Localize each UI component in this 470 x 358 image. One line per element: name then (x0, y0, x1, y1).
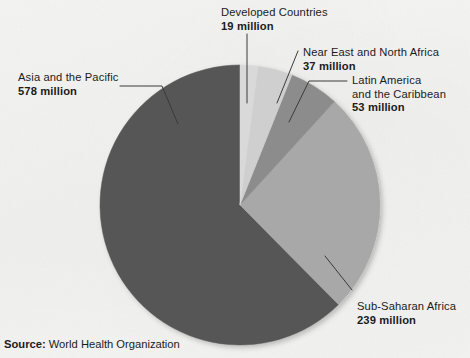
label-sub-saharan-value: 239 million (357, 314, 456, 328)
label-latin-america-name-line1: Latin America (352, 74, 446, 88)
label-near-east-name: Near East and North Africa (303, 46, 439, 60)
label-developed-countries-name: Developed Countries (221, 6, 328, 20)
source-note: Source: World Health Organization (4, 338, 180, 350)
pie-slices-group (100, 65, 380, 345)
label-developed-countries: Developed Countries 19 million (221, 6, 328, 33)
label-asia-and-the-pacific: Asia and the Pacific 578 million (18, 71, 119, 98)
label-sub-saharan-africa: Sub-Saharan Africa 239 million (357, 300, 456, 327)
label-latin-america-name-line2: and the Caribbean (352, 88, 446, 102)
label-asia-pacific-name: Asia and the Pacific (18, 71, 119, 85)
label-sub-saharan-name: Sub-Saharan Africa (357, 300, 456, 314)
label-asia-pacific-value: 578 million (18, 85, 119, 99)
label-latin-america-value: 53 million (352, 101, 446, 115)
label-latin-america-and-the-caribbean: Latin America and the Caribbean 53 milli… (352, 74, 446, 115)
source-label: Source: (4, 338, 46, 350)
chart-page: Developed Countries 19 million Near East… (0, 0, 470, 358)
source-value: World Health Organization (49, 338, 180, 350)
label-near-east-value: 37 million (303, 60, 439, 74)
label-near-east-and-north-africa: Near East and North Africa 37 million (303, 46, 439, 73)
label-developed-countries-value: 19 million (221, 20, 328, 34)
